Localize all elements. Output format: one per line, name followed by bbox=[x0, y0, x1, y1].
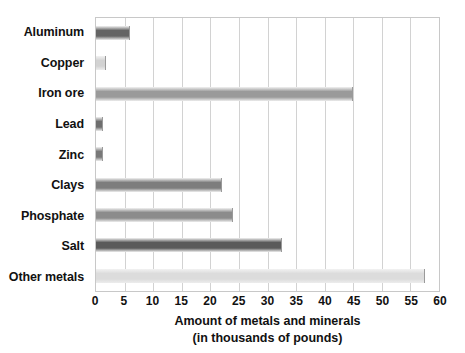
bar-row bbox=[96, 79, 439, 109]
bar-row bbox=[96, 230, 439, 260]
plot-area bbox=[95, 17, 440, 292]
category-label: Iron ore bbox=[0, 78, 90, 109]
bar bbox=[96, 178, 222, 192]
x-tick-label: 30 bbox=[261, 294, 274, 308]
x-tick-label: 20 bbox=[203, 294, 216, 308]
category-label: Copper bbox=[0, 48, 90, 79]
bar-row bbox=[96, 261, 439, 291]
bar-row bbox=[96, 200, 439, 230]
bar-row bbox=[96, 170, 439, 200]
bar-row bbox=[96, 109, 439, 139]
category-label: Phosphate bbox=[0, 200, 90, 231]
x-tick-label: 0 bbox=[92, 294, 99, 308]
bar bbox=[96, 87, 353, 101]
category-label: Zinc bbox=[0, 139, 90, 170]
x-tick-label: 45 bbox=[347, 294, 360, 308]
bar-chart: AluminumCopperIron oreLeadZincClaysPhosp… bbox=[0, 0, 465, 353]
x-tick-label: 50 bbox=[376, 294, 389, 308]
x-tick-label: 10 bbox=[146, 294, 159, 308]
x-tick-label: 25 bbox=[232, 294, 245, 308]
x-tick-label: 60 bbox=[433, 294, 446, 308]
x-tick-label: 35 bbox=[290, 294, 303, 308]
bar bbox=[96, 147, 103, 161]
bar bbox=[96, 269, 425, 283]
bar-row bbox=[96, 139, 439, 169]
x-axis-title-line2: (in thousands of pounds) bbox=[95, 330, 440, 347]
x-axis-title: Amount of metals and minerals (in thousa… bbox=[95, 313, 440, 347]
bar bbox=[96, 117, 103, 131]
category-label: Other metals bbox=[0, 262, 90, 293]
bar bbox=[96, 26, 130, 40]
category-label: Clays bbox=[0, 170, 90, 201]
x-tick-label: 40 bbox=[318, 294, 331, 308]
x-tick-label: 55 bbox=[405, 294, 418, 308]
x-tick-label: 15 bbox=[175, 294, 188, 308]
category-label: Lead bbox=[0, 109, 90, 140]
x-axis-title-line1: Amount of metals and minerals bbox=[95, 313, 440, 330]
category-label: Salt bbox=[0, 231, 90, 262]
bar bbox=[96, 238, 282, 252]
bar bbox=[96, 208, 233, 222]
category-axis: AluminumCopperIron oreLeadZincClaysPhosp… bbox=[0, 17, 90, 292]
bar bbox=[96, 56, 106, 70]
category-label: Aluminum bbox=[0, 17, 90, 48]
value-axis: 051015202530354045505560 bbox=[95, 294, 440, 312]
x-tick-label: 5 bbox=[120, 294, 127, 308]
bar-row bbox=[96, 48, 439, 78]
bar-row bbox=[96, 18, 439, 48]
bars-layer bbox=[96, 18, 439, 291]
